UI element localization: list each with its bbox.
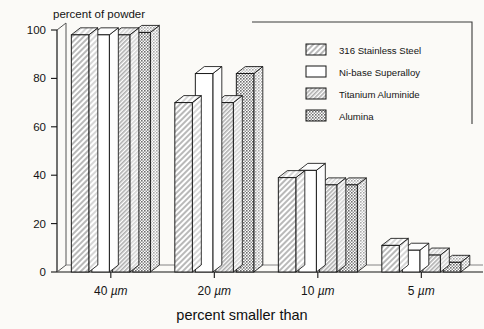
y-axis-title: percent of powder bbox=[53, 8, 145, 20]
y-tick-label-0: 0 bbox=[40, 266, 46, 278]
legend-label-1: Ni-base Superalloy bbox=[339, 67, 420, 78]
bar-side-face bbox=[296, 171, 305, 272]
legend-label-3: Alumina bbox=[339, 111, 374, 122]
x-tick-label-0: 40 µm bbox=[94, 284, 128, 298]
bar-side-face bbox=[233, 96, 242, 272]
bar-front-face bbox=[382, 245, 400, 272]
legend-entry-3: Alumina bbox=[306, 110, 374, 122]
y-tick-label-40: 40 bbox=[33, 169, 46, 181]
bar-side-face bbox=[357, 178, 366, 272]
bar-2-0 bbox=[278, 171, 305, 272]
bar-side-face bbox=[192, 96, 201, 272]
bar-1-0 bbox=[175, 96, 202, 272]
legend-label-2: Titanium Aluminide bbox=[339, 89, 420, 100]
bar-front-face bbox=[71, 35, 89, 272]
legend-swatch-3 bbox=[306, 110, 326, 121]
bar-side-face bbox=[130, 28, 139, 272]
bar-chart-canvas: percent of powder 02040608010040 µm20 µm… bbox=[0, 0, 484, 329]
bar-side-face bbox=[89, 28, 98, 272]
y-tick-label-80: 80 bbox=[33, 72, 46, 84]
chart-figure: percent of powder 02040608010040 µm20 µm… bbox=[0, 0, 484, 329]
legend-label-0: 316 Stainless Steel bbox=[339, 45, 421, 56]
legend-swatch-0 bbox=[306, 44, 326, 55]
bar-3-0 bbox=[382, 238, 409, 272]
legend-swatch-2 bbox=[306, 88, 326, 99]
bar-side-face bbox=[213, 67, 222, 272]
bar-0-0 bbox=[71, 28, 98, 272]
bar-side-face bbox=[109, 28, 118, 272]
x-tick-label-2: 10 µm bbox=[301, 284, 335, 298]
x-tick-label-1: 20 µm bbox=[198, 284, 232, 298]
bar-side-face bbox=[337, 178, 346, 272]
legend-entry-0: 316 Stainless Steel bbox=[306, 44, 421, 56]
x-tick-label-3: 5 µm bbox=[408, 284, 435, 298]
bar-front-face bbox=[175, 103, 193, 272]
legend-entry-2: Titanium Aluminide bbox=[306, 88, 420, 100]
bar-front-face bbox=[278, 178, 296, 272]
y-tick-label-100: 100 bbox=[27, 24, 46, 36]
bar-side-face bbox=[150, 25, 159, 272]
legend-entry-1: Ni-base Superalloy bbox=[306, 66, 420, 78]
y-tick-label-20: 20 bbox=[33, 218, 46, 230]
bar-side-face bbox=[316, 163, 325, 272]
x-axis-title: percent smaller than bbox=[176, 307, 307, 323]
y-tick-label-60: 60 bbox=[33, 121, 46, 133]
bar-side-face bbox=[254, 67, 263, 272]
legend-swatch-1 bbox=[306, 66, 326, 77]
